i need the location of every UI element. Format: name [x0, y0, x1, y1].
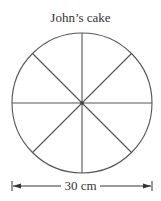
dimension-label-text: 30 cm	[61, 178, 99, 193]
center-point	[80, 101, 84, 105]
cake-diagram	[0, 0, 161, 201]
dimension-label: 30 cm	[0, 178, 161, 194]
